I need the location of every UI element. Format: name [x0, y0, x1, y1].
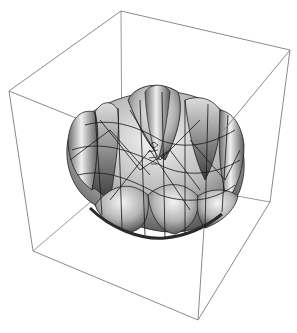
surface [67, 85, 244, 238]
surface-plot [0, 0, 297, 333]
surface-plot-canvas [0, 0, 297, 333]
